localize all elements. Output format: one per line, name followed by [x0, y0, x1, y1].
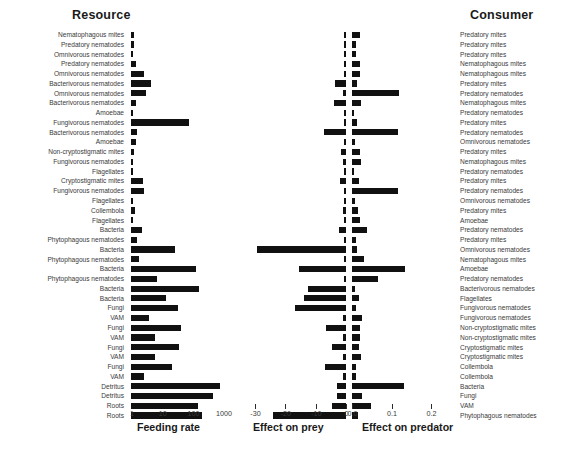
feeding-rate-row — [131, 303, 243, 313]
effect-on-prey-bar — [344, 41, 346, 47]
consumer-label: Collembola — [458, 372, 583, 382]
effect-on-predator-row — [352, 313, 452, 323]
effect-on-predator-axis: Effect on predator 0.00.10.2 — [352, 404, 454, 430]
feeding-rate-bar — [131, 90, 146, 96]
consumer-label: Nematophagous mites — [458, 157, 583, 167]
resource-label: Phytophagous nematodes — [0, 255, 126, 265]
resource-label: Collembola — [0, 206, 126, 216]
resource-label: Phytophagous nematodes — [0, 235, 126, 245]
feeding-rate-bar — [131, 295, 166, 301]
feeding-rate-row — [131, 118, 243, 128]
feeding-rate-row — [131, 216, 243, 226]
feeding-rate-bar — [131, 61, 136, 67]
resource-label: Omnivorous nematodes — [0, 89, 126, 99]
effect-on-predator-row — [352, 391, 452, 401]
feeding-rate-row — [131, 196, 243, 206]
consumer-label: Omnivorous nematodes — [458, 196, 583, 206]
consumer-label: Predatory mites — [458, 40, 583, 50]
feeding-rate-row — [131, 255, 243, 265]
feeding-rate-tick-label: 100 — [187, 409, 199, 418]
feeding-rate-bar — [131, 246, 175, 252]
feeding-rate-row — [131, 225, 243, 235]
effect-on-predator-row — [352, 118, 452, 128]
feeding-rate-row — [131, 147, 243, 157]
feeding-rate-bar — [131, 266, 196, 272]
consumer-label: Fungi — [458, 391, 583, 401]
effect-on-prey-row — [249, 245, 349, 255]
feeding-rate-bar — [131, 198, 133, 204]
feeding-rate-row — [131, 98, 243, 108]
consumer-label: Predatory nematodes — [458, 108, 583, 118]
consumer-label: Predatory nematodes — [458, 128, 583, 138]
consumer-label: Predatory mites — [458, 50, 583, 60]
consumer-label: Predatory mites — [458, 30, 583, 40]
effect-on-predator-bar — [352, 207, 358, 213]
effect-on-prey-bar — [295, 305, 346, 311]
resource-label: Omnivorous nematodes — [0, 69, 126, 79]
effect-on-prey-row — [249, 264, 349, 274]
effect-on-predator-row — [352, 137, 452, 147]
effect-on-predator-panel — [352, 30, 452, 402]
effect-on-prey-bar — [332, 344, 346, 350]
effect-on-predator-row — [352, 176, 452, 186]
effect-on-predator-row — [352, 147, 452, 157]
resource-label: Cryptostigmatic mites — [0, 176, 126, 186]
resource-label: Fungi — [0, 343, 126, 353]
effect-on-predator-bar — [352, 80, 357, 86]
effect-on-predator-row — [352, 50, 452, 60]
feeding-rate-bar — [131, 178, 143, 184]
effect-on-predator-row — [352, 225, 452, 235]
feeding-rate-bar — [131, 315, 149, 321]
effect-on-predator-tick-label: 0.2 — [427, 409, 437, 418]
effect-on-prey-bar — [344, 188, 346, 194]
resource-label: Roots — [0, 411, 126, 421]
effect-on-prey-axis: Effect on prey -30-20-100 — [249, 404, 351, 430]
consumer-label: Predatory nematodes — [458, 186, 583, 196]
feeding-rate-bar — [131, 256, 139, 262]
effect-on-predator-row — [352, 157, 452, 167]
effect-on-predator-bar — [352, 139, 355, 145]
effect-on-prey-row — [249, 89, 349, 99]
feeding-rate-row — [131, 391, 243, 401]
feeding-rate-row — [131, 128, 243, 138]
feeding-rate-bar — [131, 149, 134, 155]
effect-on-predator-row — [352, 245, 452, 255]
resource-label: VAM — [0, 333, 126, 343]
resource-label: Omnivorous nematodes — [0, 50, 126, 60]
feeding-rate-row — [131, 343, 243, 353]
consumer-label: Bacterivorous nematodes — [458, 284, 583, 294]
effect-on-prey-bar — [343, 354, 346, 360]
effect-on-predator-row — [352, 30, 452, 40]
resource-label: Fungivorous nematodes — [0, 118, 126, 128]
consumer-label: Omnivorous nematodes — [458, 245, 583, 255]
effect-on-predator-tick-label: 0.1 — [387, 409, 397, 418]
feeding-rate-bar — [131, 393, 213, 399]
effect-on-predator-tick-label: 0.0 — [348, 409, 358, 418]
effect-on-predator-bar — [352, 119, 357, 125]
effect-on-prey-bar — [339, 227, 346, 233]
effect-on-predator-bar — [352, 149, 360, 155]
effect-on-predator-bar — [352, 168, 354, 174]
consumer-label: Nematophagous mites — [458, 98, 583, 108]
feeding-rate-bar — [131, 139, 136, 145]
resource-label: VAM — [0, 372, 126, 382]
effect-on-prey-row — [249, 216, 349, 226]
effect-on-prey-bar — [343, 315, 346, 321]
feeding-rate-row — [131, 294, 243, 304]
feeding-rate-row — [131, 89, 243, 99]
feeding-rate-row — [131, 157, 243, 167]
consumer-label: Amoebae — [458, 264, 583, 274]
effect-on-prey-row — [249, 196, 349, 206]
feeding-rate-bar — [131, 80, 151, 86]
feeding-rate-row — [131, 362, 243, 372]
feeding-rate-row — [131, 40, 243, 50]
feeding-rate-bar — [131, 305, 178, 311]
effect-on-predator-row — [352, 274, 452, 284]
feeding-rate-row — [131, 30, 243, 40]
effect-on-prey-tick-label: -10 — [311, 409, 321, 418]
effect-on-predator-bar — [352, 276, 378, 282]
effect-on-predator-row — [352, 323, 452, 333]
feeding-rate-bar — [131, 100, 136, 106]
effect-on-predator-row — [352, 264, 452, 274]
effect-on-prey-row — [249, 128, 349, 138]
